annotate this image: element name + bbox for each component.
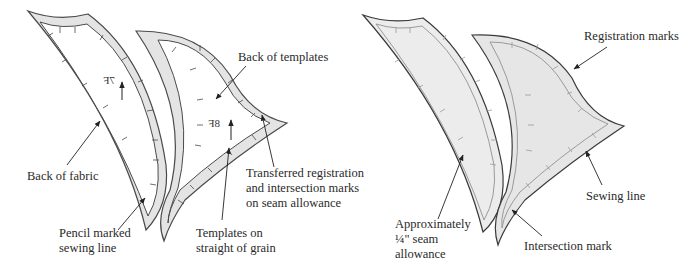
label-line: Registration marks bbox=[584, 29, 679, 44]
label-registration-marks: Registration marks bbox=[584, 29, 679, 44]
label-straight-of-grain: Templates on straight of grain bbox=[196, 226, 276, 256]
label-line: and intersection marks bbox=[246, 181, 364, 196]
label-line: Approximately bbox=[395, 217, 471, 232]
label-line: allowance bbox=[395, 247, 471, 262]
label-line: straight of grain bbox=[196, 241, 276, 256]
label-line: Intersection mark bbox=[524, 239, 612, 254]
label-line: Back of templates bbox=[238, 50, 328, 65]
label-seam-allowance: Approximately ¼" seam allowance bbox=[395, 217, 471, 262]
label-line: Back of fabric bbox=[27, 169, 99, 184]
piece-label-7f: 7F bbox=[103, 74, 115, 86]
label-back-of-fabric: Back of fabric bbox=[27, 169, 99, 184]
label-line: Transferred registration bbox=[246, 166, 364, 181]
label-pencil-marked-sewing-line: Pencil marked sewing line bbox=[59, 226, 131, 256]
piece-label-8f: 8F bbox=[208, 117, 220, 129]
label-sewing-line: Sewing line bbox=[586, 189, 645, 204]
label-intersection-mark: Intersection mark bbox=[524, 239, 612, 254]
label-line: Sewing line bbox=[586, 189, 645, 204]
label-line: sewing line bbox=[59, 241, 131, 256]
label-transferred-marks: Transferred registration and intersectio… bbox=[246, 166, 364, 211]
label-line: Templates on bbox=[196, 226, 276, 241]
label-line: ¼" seam bbox=[395, 232, 471, 247]
label-back-of-templates: Back of templates bbox=[238, 50, 328, 65]
label-line: on seam allowance bbox=[246, 196, 364, 211]
label-line: Pencil marked bbox=[59, 226, 131, 241]
seam-allowance-diagram: 7F 8F bbox=[0, 0, 694, 277]
